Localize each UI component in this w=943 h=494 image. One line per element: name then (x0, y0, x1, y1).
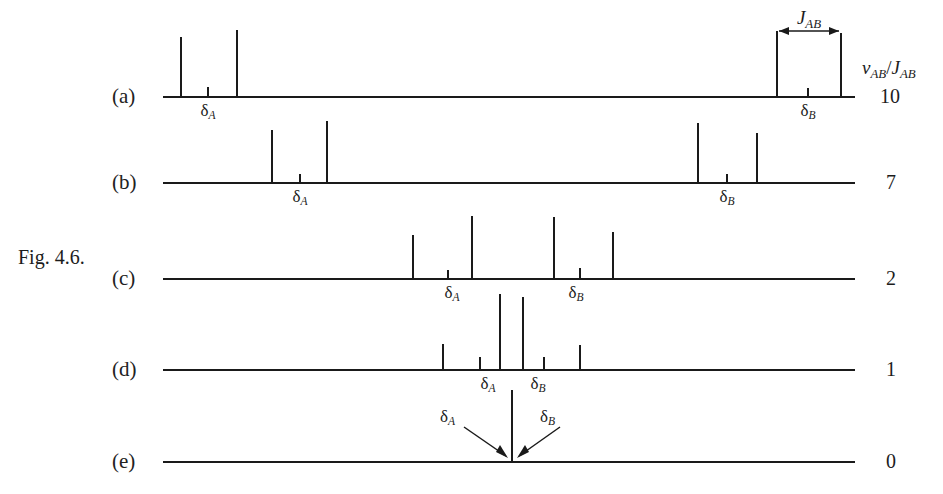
spectrum-trace-d (163, 294, 855, 370)
delta-a-arrow-row-e (464, 427, 508, 458)
spectrum-trace-c (163, 216, 855, 279)
spectra-canvas (0, 0, 943, 494)
j-coupling-span-arrow (779, 27, 839, 35)
spectra-traces (163, 30, 855, 462)
spectrum-trace-a (163, 30, 855, 97)
spectrum-trace-b (163, 121, 855, 183)
spectrum-trace-e (163, 390, 855, 462)
delta-b-arrow-row-e (517, 427, 560, 458)
figure-4-6: Fig. 4.6. (a) (b) (c) (d) (e) νAB/JAB 10… (0, 0, 943, 494)
